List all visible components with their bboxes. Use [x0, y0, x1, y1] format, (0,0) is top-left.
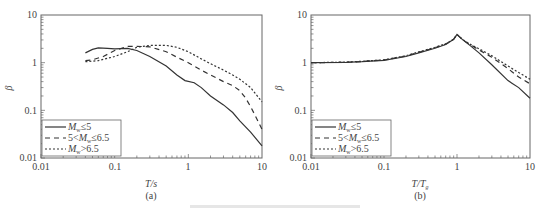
- legend: Mw≤5 5<Mw≤6.5 Mw>6.5: [312, 120, 391, 156]
- x-tick-0.01: 0.01: [302, 161, 320, 172]
- curve-dotted: [85, 45, 262, 102]
- y-tick-1: 1: [302, 57, 307, 68]
- panel-b-chart: 10 1 0.1 0.01 0.01 0.1 1 10 T/Tg β (b) M…: [273, 9, 535, 202]
- x-tick-1: 1: [455, 161, 460, 172]
- curve-dotted: [311, 35, 530, 80]
- panel-label: (b): [414, 190, 426, 202]
- x-tick-0.01: 0.01: [32, 161, 50, 172]
- figure-caption-faint: [190, 205, 360, 208]
- panel-a-chart: 10 1 0.1 0.01 0.01 0.1 1 10 T/s β (a) Mw…: [3, 9, 267, 202]
- y-tick-labels: 10 1 0.1 0.01: [290, 9, 308, 163]
- legend-entry-3: Mw>6.5: [67, 143, 99, 155]
- figure: 10 1 0.1 0.01 0.01 0.1 1 10 T/s β (a) Mw…: [0, 0, 543, 212]
- x-tick-0.1: 0.1: [109, 161, 122, 172]
- y-tick-10: 10: [297, 9, 307, 20]
- panel-label: (a): [145, 190, 156, 202]
- y-axis-label: β: [3, 85, 14, 91]
- y-tick-0.1: 0.1: [295, 105, 308, 116]
- x-tick-labels: 0.01 0.1 1 10: [32, 161, 267, 172]
- x-tick-10: 10: [257, 161, 267, 172]
- data-curves: [311, 35, 530, 99]
- x-tick-0.1: 0.1: [378, 161, 391, 172]
- legend: Mw≤5 5<Mw≤6.5 Mw>6.5: [42, 120, 121, 156]
- curve-dashed: [85, 46, 262, 129]
- y-tick-10: 10: [27, 9, 37, 20]
- y-tick-labels: 10 1 0.1 0.01: [20, 9, 38, 163]
- x-axis-label: T/s: [145, 178, 157, 189]
- legend-entry-3: Mw>6.5: [337, 143, 369, 155]
- x-tick-1: 1: [186, 161, 191, 172]
- curve-dashed: [311, 35, 530, 84]
- x-tick-labels: 0.01 0.1 1 10: [302, 161, 535, 172]
- y-tick-1: 1: [32, 57, 37, 68]
- y-tick-0.1: 0.1: [25, 105, 38, 116]
- x-axis-label: T/Tg: [412, 178, 429, 190]
- curve-solid: [311, 35, 530, 99]
- x-tick-10: 10: [525, 161, 535, 172]
- y-axis-label: β: [273, 85, 284, 91]
